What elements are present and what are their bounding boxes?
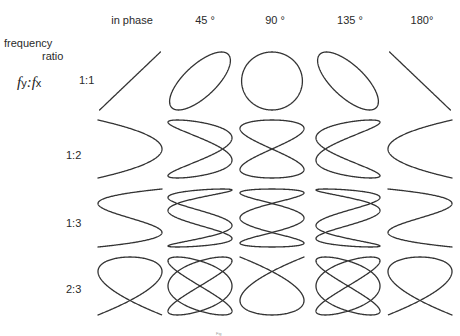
- lissajous-curve-2-3-180: [388, 257, 452, 315]
- lissajous-curve-1-1-135: [318, 52, 379, 110]
- lissajous-curve-1-2-0: [98, 120, 162, 178]
- lissajous-curve-2-3-90: [240, 257, 304, 315]
- lissajous-curve-1-1-0: [100, 52, 161, 110]
- lissajous-curve-1-3-180: [388, 189, 452, 247]
- lissajous-curve-1-1-180: [390, 52, 451, 110]
- lissajous-curve-1-2-135: [316, 120, 380, 178]
- lissajous-curve-1-1-45: [170, 52, 231, 110]
- lissajous-curve-1-1-90: [242, 52, 303, 110]
- lissajous-curve-2-3-45: [168, 257, 232, 315]
- lissajous-curve-2-3-135: [316, 257, 380, 315]
- lissajous-curve-1-3-0: [98, 189, 162, 247]
- lissajous-curve-1-3-45: [168, 189, 232, 247]
- lissajous-curve-1-2-180: [388, 120, 452, 178]
- lissajous-curve-1-2-45: [168, 120, 232, 178]
- lissajous-curve-2-3-0: [98, 257, 162, 315]
- lissajous-curve-1-3-135: [316, 189, 380, 247]
- lissajous-curve-1-3-90: [240, 189, 304, 247]
- figure-footnote: Fig: [216, 331, 222, 336]
- lissajous-curve-1-2-90: [240, 120, 304, 178]
